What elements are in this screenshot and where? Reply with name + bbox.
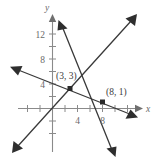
coordinate-graph-figure: y x 12 8 4 4 8 (3, 3) (8, 1) [0,0,155,164]
y-tick-label-12: 12 [36,30,46,40]
steep-line-arrow-start-icon [58,20,68,31]
ascending-line-segment [18,21,131,146]
x-axis-arrow-icon [135,105,143,112]
y-tick-label-4: 4 [40,80,45,90]
y-tick-label-8: 8 [40,55,45,65]
y-axis-arrow-icon [49,14,56,22]
point-marker-8-1 [100,100,105,105]
x-tick-label-8: 8 [100,116,105,126]
ascending-line [12,14,137,153]
point-marker-3-3 [68,86,73,91]
x-axis-label: x [145,104,151,114]
graph-canvas: y x 12 8 4 4 8 (3, 3) (8, 1) [0,0,155,164]
steep-line-arrow-end-icon [107,147,117,158]
x-tick-label-4: 4 [75,116,80,126]
point-label-8-1: (8, 1) [106,87,127,98]
point-label-3-3: (3, 3) [56,71,77,82]
y-axis-label: y [44,3,50,13]
ascending-line-arrow-end-icon [126,14,138,26]
